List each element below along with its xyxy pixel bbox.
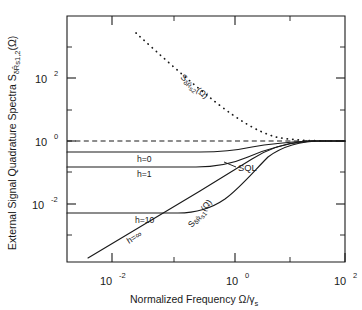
x-tick-mantissa: 10 (100, 275, 112, 287)
x-tick-mantissa: 10 (226, 275, 238, 287)
y-axis-title: External Signal Quadrature Spectra SδR̂s… (6, 36, 22, 250)
svg-text:SδR̂s2(Ω): SδR̂s2(Ω) (177, 72, 210, 103)
svg-text:External Signal Quadrature Spe: External Signal Quadrature Spectra SδR̂s… (6, 36, 22, 250)
x-tick-label-1e0: 10 0 (226, 271, 249, 287)
h1-annotation: h=1 (137, 169, 152, 179)
y-tick-label-1e-2: 10 -2 (32, 195, 58, 211)
x-tick-labels: 10 -2 10 0 10 2 (100, 271, 357, 287)
y-tick-exponent: -2 (51, 195, 58, 204)
y-tick-labels: 10 2 10 0 10 -2 (32, 69, 58, 211)
x-tick-exponent: 2 (353, 271, 357, 280)
x-axis-title: Normalized Frequency Ω/γs (130, 293, 259, 308)
y-tick-mantissa: 10 (35, 136, 47, 148)
y-tick-mantissa: 10 (32, 199, 44, 211)
x-axis-title-text: Normalized Frequency Ω/γ (130, 293, 255, 305)
y-tick-label-1e2: 10 2 (35, 69, 58, 85)
x-tick-label-1e-2: 10 -2 (100, 271, 126, 287)
svg-text:SδR̂s1(Ω): SδR̂s1(Ω) (186, 197, 216, 231)
h10-annotation: h=10 (135, 215, 155, 225)
chart-canvas: 10 2 10 0 10 -2 10 -2 10 0 10 (0, 0, 362, 310)
y-tick-label-1e0: 10 0 (35, 132, 58, 148)
curve-s-dr-s2 (136, 33, 345, 141)
y-axis-title-sub2: s1,2 (13, 51, 22, 65)
h0-annotation-label: h=0 (137, 154, 152, 164)
y-tick-mantissa: 10 (35, 73, 47, 85)
x-tick-exponent: -2 (119, 271, 126, 280)
h10-annotation-label: h=10 (135, 215, 155, 225)
sql-annotation-label: SQL (238, 162, 257, 173)
y-axis-title-tail: (Ω) (6, 36, 18, 51)
sql-annotation: SQL (224, 162, 257, 173)
plot-frame (67, 16, 345, 262)
x-tick-exponent: 0 (245, 271, 249, 280)
x-tick-mantissa: 10 (334, 275, 346, 287)
svg-text:Normalized Frequency Ω/γs: Normalized Frequency Ω/γs (130, 293, 259, 308)
y-tick-exponent: 2 (54, 69, 58, 78)
figure-root: 10 2 10 0 10 -2 10 -2 10 0 10 (0, 0, 362, 310)
s-dr-s1-curve-label: SδR̂s1(Ω) (186, 197, 216, 231)
y-axis-title-text: External Signal Quadrature Spectra S (6, 74, 18, 250)
x-axis-ticks (112, 16, 345, 262)
hinf-annotation: h=∞ (125, 229, 144, 246)
h1-annotation-label: h=1 (137, 169, 152, 179)
y-tick-exponent: 0 (54, 132, 58, 141)
s-dr-s2-label-tail: (Ω) (195, 85, 211, 101)
s-dr-s2-curve-label: SδR̂s2(Ω) (177, 72, 210, 103)
hinf-annotation-label: h=∞ (125, 229, 144, 246)
curve-h-1 (67, 141, 345, 167)
x-axis-title-subscript: s (255, 299, 259, 308)
h0-annotation: h=0 (137, 154, 152, 164)
x-tick-label-1e2: 10 2 (334, 271, 357, 287)
